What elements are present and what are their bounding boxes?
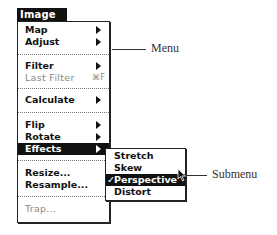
menu-title-image[interactable]: Image	[17, 8, 67, 21]
menu-separator	[18, 112, 109, 113]
submenu-item-skew[interactable]: Skew	[106, 162, 185, 174]
menu-item-resample[interactable]: Resample...	[18, 179, 109, 191]
menu-item-adjust[interactable]: Adjust	[18, 36, 109, 48]
menu-item-effects[interactable]: Effects	[18, 143, 109, 155]
menu-item-map[interactable]: Map	[18, 24, 109, 36]
submenu-item-distort[interactable]: Distort	[106, 186, 185, 198]
menu-item-label: Last Filter	[25, 72, 75, 84]
submenu-arrow-icon	[96, 96, 101, 104]
menu-item-label: Flip	[25, 119, 45, 131]
submenu-item-label: Distort	[114, 186, 151, 198]
menu-item-label: Filter	[25, 60, 54, 72]
menu-item-label: Rotate	[25, 131, 61, 143]
menu-item-label: Resize...	[25, 167, 70, 179]
menu-separator	[18, 88, 109, 89]
image-menu: Map Adjust Filter Last Filter ⌘F Calcula…	[17, 21, 110, 223]
menu-item-filter[interactable]: Filter	[18, 60, 109, 72]
submenu-arrow-icon	[96, 133, 101, 141]
submenu-arrow-icon	[96, 62, 101, 70]
submenu-arrow-icon	[96, 145, 101, 153]
menu-item-rotate[interactable]: Rotate	[18, 131, 109, 143]
submenu-item-label: Stretch	[114, 150, 153, 162]
menu-item-label: Adjust	[25, 36, 59, 48]
menu-item-calculate[interactable]: Calculate	[18, 94, 109, 106]
menu-item-label: Resample...	[25, 179, 88, 191]
menu-item-label: Effects	[25, 143, 61, 155]
submenu-arrow-icon	[96, 26, 101, 34]
submenu-callout-label: Submenu	[212, 167, 257, 182]
submenu-item-perspective[interactable]: ✓ Perspective	[106, 174, 185, 186]
submenu-arrow-icon	[96, 38, 101, 46]
submenu-arrow-icon	[96, 121, 101, 129]
menu-separator	[18, 160, 109, 161]
submenu-item-stretch[interactable]: Stretch	[106, 150, 185, 162]
menu-callout-label: Menu	[151, 41, 179, 56]
menu-item-trap: Trap...	[18, 203, 109, 215]
submenu-item-label: Perspective	[114, 174, 177, 186]
effects-submenu: Stretch Skew ✓ Perspective Distort	[105, 148, 186, 201]
menu-item-label: Map	[25, 24, 48, 36]
menu-separator	[18, 196, 109, 197]
menu-item-shortcut: ⌘F	[92, 72, 105, 84]
menu-item-label: Trap...	[25, 203, 56, 215]
menu-item-flip[interactable]: Flip	[18, 119, 109, 131]
menu-item-last-filter: Last Filter ⌘F	[18, 72, 109, 84]
menu-separator	[18, 54, 109, 55]
submenu-leader-line	[187, 175, 207, 176]
menu-leader-line	[112, 49, 146, 50]
menu-item-resize[interactable]: Resize...	[18, 167, 109, 179]
submenu-item-label: Skew	[114, 162, 142, 174]
pointer-cursor-icon	[177, 168, 187, 182]
menu-item-label: Calculate	[25, 94, 75, 106]
